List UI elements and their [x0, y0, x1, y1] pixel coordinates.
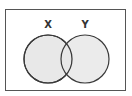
set-y-label: Y [80, 19, 89, 30]
set-x-label: X [44, 19, 52, 30]
set-y-circle [61, 35, 109, 83]
venn-diagram: X Y [0, 0, 132, 96]
